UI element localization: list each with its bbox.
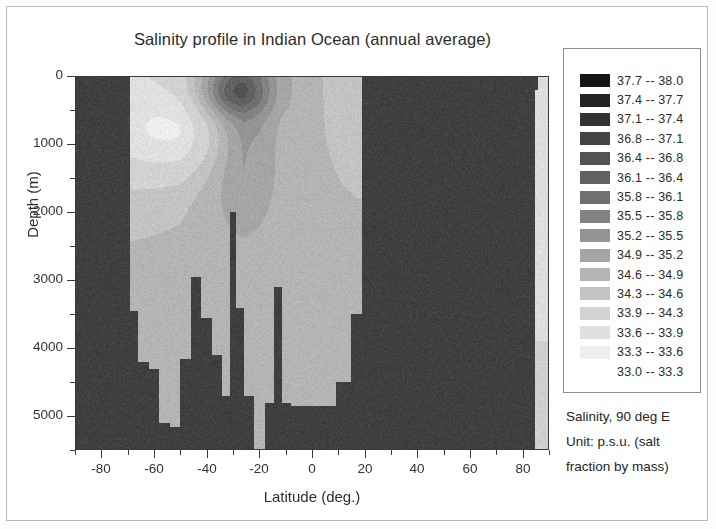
- y-axis-minor-tick: [70, 314, 75, 315]
- legend-entry: 35.8 -- 36.1: [580, 187, 698, 206]
- legend-entry-label: 35.5 -- 35.8: [617, 209, 683, 223]
- y-axis-tick: [67, 76, 75, 77]
- caption-line: Salinity, 90 deg E: [566, 404, 706, 429]
- legend-box: 37.7 -- 38.037.4 -- 37.737.1 -- 37.436.8…: [563, 48, 701, 393]
- legend-swatch: [580, 268, 610, 281]
- x-axis-minor-tick: [128, 450, 129, 455]
- legend-swatch: [580, 346, 610, 359]
- legend-entry-label: 36.4 -- 36.8: [617, 151, 683, 165]
- legend-entry: 36.4 -- 36.8: [580, 149, 698, 168]
- x-axis-tick-label: -40: [177, 461, 237, 476]
- legend-entry: 36.1 -- 36.4: [580, 168, 698, 187]
- legend-entry: 35.5 -- 35.8: [580, 207, 698, 226]
- legend-entry: 33.0 -- 33.3: [580, 362, 698, 381]
- legend-swatch: [580, 94, 610, 107]
- y-axis-minor-tick: [70, 110, 75, 111]
- legend-entry: 33.6 -- 33.9: [580, 323, 698, 342]
- x-axis-minor-tick: [496, 450, 497, 455]
- x-axis-tick-label: 0: [282, 461, 342, 476]
- x-axis-tick-label: 80: [493, 461, 553, 476]
- legend-entry: 35.2 -- 35.5: [580, 226, 698, 245]
- y-axis-tick: [67, 280, 75, 281]
- legend-entry: 34.6 -- 34.9: [580, 265, 698, 284]
- y-axis-minor-tick: [70, 246, 75, 247]
- legend-swatch: [580, 307, 610, 320]
- x-axis-minor-tick: [549, 450, 550, 455]
- legend-entry: 33.9 -- 34.3: [580, 304, 698, 323]
- legend-swatch: [580, 74, 610, 87]
- legend-entry-label: 37.7 -- 38.0: [617, 74, 683, 88]
- legend-entry: 34.3 -- 34.6: [580, 284, 698, 303]
- x-axis-title: Latitude (deg.): [75, 488, 549, 505]
- legend-swatch: [580, 229, 610, 242]
- legend-entry-label: 33.9 -- 34.3: [617, 306, 683, 320]
- x-axis-tick: [154, 450, 155, 458]
- legend-entry-label: 37.1 -- 37.4: [617, 112, 683, 126]
- y-axis-tick-label: 0: [17, 67, 63, 82]
- x-axis-tick-label: 20: [335, 461, 395, 476]
- legend-swatch: [580, 326, 610, 339]
- x-axis-tick-label: 40: [387, 461, 447, 476]
- legend-entry-label: 33.0 -- 33.3: [617, 365, 683, 379]
- legend-swatch: [580, 210, 610, 223]
- y-axis-tick-label: 5000: [17, 407, 63, 422]
- legend-caption: Salinity, 90 deg EUnit: p.s.u. (saltfrac…: [566, 404, 706, 479]
- x-axis-tick-label: -60: [124, 461, 184, 476]
- legend-entry-label: 35.2 -- 35.5: [617, 229, 683, 243]
- legend-swatch: [580, 287, 610, 300]
- legend-entry-label: 36.1 -- 36.4: [617, 171, 683, 185]
- y-axis-tick-label: 4000: [17, 339, 63, 354]
- x-axis-tick: [470, 450, 471, 458]
- caption-line: fraction by mass): [566, 454, 706, 479]
- x-axis-tick: [365, 450, 366, 458]
- y-axis-tick: [67, 144, 75, 145]
- salinity-heatmap: [75, 76, 549, 450]
- page-title: Salinity profile in Indian Ocean (annual…: [75, 30, 550, 49]
- caption-line: Unit: p.s.u. (salt: [566, 429, 706, 454]
- legend-entry-label: 36.8 -- 37.1: [617, 132, 683, 146]
- legend-entry-label: 37.4 -- 37.7: [617, 93, 683, 107]
- y-axis-tick: [67, 416, 75, 417]
- legend-entry: 37.1 -- 37.4: [580, 110, 698, 129]
- legend-swatch: [580, 249, 610, 262]
- x-axis-tick-label: -80: [71, 461, 131, 476]
- legend-swatch: [580, 191, 610, 204]
- y-axis-tick: [67, 348, 75, 349]
- x-axis-minor-tick: [338, 450, 339, 455]
- x-axis-minor-tick: [444, 450, 445, 455]
- y-axis-minor-tick: [70, 178, 75, 179]
- heatmap-plot-area: [75, 76, 549, 450]
- legend-entry-label: 33.6 -- 33.9: [617, 326, 683, 340]
- legend-entry-label: 34.9 -- 35.2: [617, 248, 683, 262]
- legend-swatch: [580, 365, 610, 378]
- x-axis-tick: [312, 450, 313, 458]
- y-axis-tick: [67, 212, 75, 213]
- x-axis-tick-label: -20: [229, 461, 289, 476]
- legend-entry: 37.7 -- 38.0: [580, 71, 698, 90]
- legend-entry-list: 37.7 -- 38.037.4 -- 37.737.1 -- 37.436.8…: [580, 71, 698, 381]
- legend-swatch: [580, 113, 610, 126]
- legend-entry-label: 35.8 -- 36.1: [617, 190, 683, 204]
- legend-swatch: [580, 132, 610, 145]
- legend-entry: 34.9 -- 35.2: [580, 246, 698, 265]
- x-axis-minor-tick: [180, 450, 181, 455]
- y-axis-minor-tick: [70, 382, 75, 383]
- x-axis-tick-label: 60: [440, 461, 500, 476]
- x-axis-tick: [523, 450, 524, 458]
- y-axis-title: Depth (m): [24, 135, 41, 275]
- legend-swatch: [580, 152, 610, 165]
- x-axis-tick: [417, 450, 418, 458]
- legend-entry-label: 34.6 -- 34.9: [617, 268, 683, 282]
- legend-entry: 37.4 -- 37.7: [580, 90, 698, 109]
- x-axis-minor-tick: [286, 450, 287, 455]
- x-axis-tick: [101, 450, 102, 458]
- legend-entry-label: 33.3 -- 33.6: [617, 345, 683, 359]
- x-axis-tick: [259, 450, 260, 458]
- legend-entry: 36.8 -- 37.1: [580, 129, 698, 148]
- figure-page: Salinity profile in Indian Ocean (annual…: [0, 0, 716, 529]
- x-axis-minor-tick: [233, 450, 234, 455]
- x-axis-minor-tick: [75, 450, 76, 455]
- legend-entry: 33.3 -- 33.6: [580, 342, 698, 361]
- legend-swatch: [580, 171, 610, 184]
- legend-entry-label: 34.3 -- 34.6: [617, 287, 683, 301]
